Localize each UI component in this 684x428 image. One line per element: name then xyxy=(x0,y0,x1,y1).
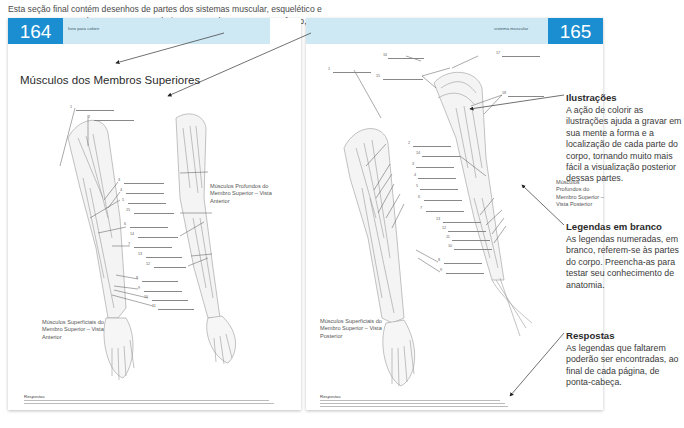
label-number: 10 xyxy=(448,244,452,248)
caption-deep-anterior: Músculos Profundos do Membro Superior – … xyxy=(210,183,280,205)
blank-line[interactable] xyxy=(443,222,481,223)
callout-answers-title: Respostas xyxy=(566,330,684,341)
blank-line[interactable] xyxy=(134,247,172,248)
label-number: 10 xyxy=(144,295,148,299)
label-number: 1 xyxy=(328,67,330,71)
label-number: 14 xyxy=(416,151,420,155)
label-number: 15 xyxy=(126,208,130,212)
blank-line[interactable] xyxy=(128,203,166,204)
answers-text xyxy=(320,400,500,401)
label-number: 6 xyxy=(418,195,420,199)
running-head: livro para colorir xyxy=(68,26,99,31)
blank-line[interactable] xyxy=(134,213,174,214)
blank-line[interactable] xyxy=(388,58,424,59)
blank-line[interactable] xyxy=(126,193,164,194)
blank-line[interactable] xyxy=(448,231,486,232)
label-number: 8 xyxy=(438,258,440,262)
blank-line[interactable] xyxy=(454,249,492,250)
blank-line[interactable] xyxy=(420,189,458,190)
blank-line[interactable] xyxy=(130,227,168,228)
left-page: 164 livro para colorir Músculos dos Memb… xyxy=(8,18,301,410)
callout-blank-labels-body: As legendas numeradas, em branco, refere… xyxy=(566,234,684,291)
answers-text xyxy=(320,403,505,404)
label-number: 12 xyxy=(442,226,446,230)
blank-line[interactable] xyxy=(508,96,544,97)
book-spread: 164 livro para colorir Músculos dos Memb… xyxy=(8,18,603,413)
running-head: sistema muscular xyxy=(494,26,528,31)
label-number: 7 xyxy=(128,242,130,246)
blank-line[interactable] xyxy=(76,110,114,111)
label-number: 13 xyxy=(138,252,142,256)
blank-line[interactable] xyxy=(424,200,462,201)
blank-line[interactable] xyxy=(152,300,188,301)
label-number: 9 xyxy=(440,268,442,272)
callout-illustrations: Ilustrações A ação de colorir as ilustra… xyxy=(566,92,684,185)
blank-line[interactable] xyxy=(154,267,186,268)
answers-text xyxy=(320,406,508,407)
label-number: 3 xyxy=(412,162,414,166)
arm-posterior-illustration xyxy=(306,18,603,410)
blank-line[interactable] xyxy=(142,281,178,282)
blank-line[interactable] xyxy=(418,178,456,179)
page-title: Músculos dos Membros Superiores xyxy=(20,74,200,86)
label-number: 7 xyxy=(420,206,422,210)
label-number: 4 xyxy=(120,188,122,192)
blank-line[interactable] xyxy=(446,273,484,274)
label-number: 2 xyxy=(408,141,410,145)
callout-blank-labels-title: Legendas em branco xyxy=(566,221,684,232)
blank-line[interactable] xyxy=(422,156,460,157)
blank-line[interactable] xyxy=(138,237,178,238)
label-number: 6 xyxy=(124,222,126,226)
label-number: 18 xyxy=(502,91,506,95)
label-number: 13 xyxy=(436,217,440,221)
caption-superficial-anterior: Músculos Superficiais do Membro Superior… xyxy=(42,319,104,341)
blank-line[interactable] xyxy=(124,183,164,184)
blank-line[interactable] xyxy=(383,79,423,80)
label-number: 9 xyxy=(138,286,140,290)
label-number: 11 xyxy=(152,304,156,308)
page-number: 165 xyxy=(548,18,603,44)
blank-line[interactable] xyxy=(426,211,464,212)
label-number: 15 xyxy=(376,74,380,78)
answers-text xyxy=(24,400,269,401)
label-number: 3 xyxy=(118,178,120,182)
answers-heading: Respostas xyxy=(24,394,45,399)
label-number: 1 xyxy=(70,105,72,109)
label-number: 2 xyxy=(88,115,90,119)
label-number: 16 xyxy=(383,53,387,57)
answers-text xyxy=(24,403,274,404)
blank-line[interactable] xyxy=(144,291,182,292)
page-number: 164 xyxy=(8,18,63,44)
callout-answers-body: As legendas que faltarem poderão ser enc… xyxy=(566,343,684,389)
blank-line[interactable] xyxy=(416,167,454,168)
label-number: 17 xyxy=(496,51,500,55)
header-band xyxy=(306,18,548,44)
blank-line[interactable] xyxy=(146,257,182,258)
blank-line[interactable] xyxy=(452,240,490,241)
callout-illustrations-body: A ação de colorir as ilustrações ajuda a… xyxy=(566,105,684,185)
callout-blank-labels: Legendas em branco As legendas numeradas… xyxy=(566,221,684,291)
callout-illustrations-title: Ilustrações xyxy=(566,92,684,103)
caption-superficial-posterior: Músculos Superficiais do Membro Superior… xyxy=(320,318,382,340)
label-number: 5 xyxy=(122,198,124,202)
blank-line[interactable] xyxy=(333,72,371,73)
blank-line[interactable] xyxy=(94,120,134,121)
label-number: 14 xyxy=(130,232,134,236)
label-number: 5 xyxy=(416,184,418,188)
label-number: 8 xyxy=(136,276,138,280)
right-page: 165 sistema muscular xyxy=(306,18,603,410)
callout-answers: Respostas As legendas que faltarem poder… xyxy=(566,330,684,389)
blank-line[interactable] xyxy=(502,56,540,57)
label-number: 4 xyxy=(414,173,416,177)
label-number: 11 xyxy=(446,235,450,239)
label-number: 12 xyxy=(146,262,150,266)
blank-line[interactable] xyxy=(158,309,194,310)
blank-line[interactable] xyxy=(413,146,451,147)
blank-line[interactable] xyxy=(444,263,482,264)
answers-heading: Respostas xyxy=(320,394,341,399)
